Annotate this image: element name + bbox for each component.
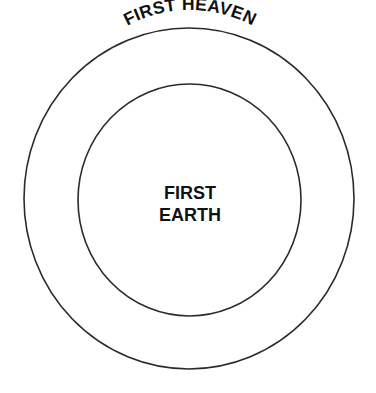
outer-circle-label-text: FIRST HEAVEN (120, 0, 260, 29)
inner-circle-label-line-2: EARTH (159, 205, 221, 225)
inner-circle-label-line-1: FIRST (164, 183, 216, 203)
outer-circle-label: FIRST HEAVEN (120, 0, 260, 29)
concentric-circles-diagram: FIRST HEAVEN FIRST EARTH (0, 0, 376, 393)
